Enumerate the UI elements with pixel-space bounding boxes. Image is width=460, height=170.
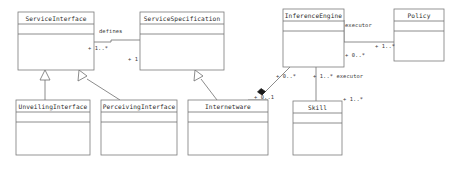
- generalization-unveilinginterface-serviceinterface: [40, 70, 50, 100]
- class-box-serviceinterface[interactable]: ServiceInterface: [18, 12, 94, 70]
- class-name-label: UnveilingInterface: [19, 103, 88, 111]
- class-name-label: Skill: [308, 104, 327, 111]
- association-line: [94, 40, 140, 42]
- class-box-internetware[interactable]: Internetware: [188, 100, 268, 155]
- edge-label-inferenceengine-bottom-multiplicity: + 0..*: [276, 73, 296, 79]
- generalization-arrowhead: [78, 70, 87, 81]
- class-box-skill[interactable]: Skill: [293, 101, 342, 155]
- edge-label-executor-bottom: + 1..* executor: [313, 73, 364, 79]
- edge-label-executor-top: executor: [345, 22, 372, 28]
- diagram-surface: ServiceInterface ServiceSpecification In…: [0, 0, 460, 170]
- class-name-label: ServiceInterface: [25, 15, 86, 22]
- edge-label-servicespecification-multiplicity: + 1: [128, 56, 138, 62]
- association-line: [262, 67, 290, 95]
- association-serviceinterface-servicespecification: [94, 40, 140, 42]
- generalization-perceivinginterface-serviceinterface: [78, 70, 120, 100]
- edge-label-skill-multiplicity: + 1..*: [343, 96, 363, 102]
- uml-class-diagram-canvas: ServiceInterface ServiceSpecification In…: [0, 0, 460, 170]
- class-box-unveilinginterface[interactable]: UnveilingInterface: [16, 100, 90, 155]
- generalization-arrowhead: [40, 70, 50, 80]
- class-name-label: Internetware: [205, 103, 251, 110]
- edge-label-defines: defines: [99, 28, 122, 34]
- class-name-label: PerceivingInterface: [103, 103, 176, 111]
- class-box-policy[interactable]: Policy: [394, 9, 444, 61]
- edge-label-policy-multiplicity: + 1..*: [375, 43, 395, 49]
- class-name-label: ServiceSpecification: [144, 15, 221, 23]
- edge-label-serviceinterface-multiplicity: + 1..*: [88, 45, 108, 51]
- class-name-label: Policy: [408, 12, 431, 20]
- generalization-line: [201, 79, 217, 100]
- class-box-perceivinginterface[interactable]: PerceivingInterface: [101, 100, 177, 155]
- generalization-line: [87, 79, 120, 100]
- edge-label-internetware-multiplicity: + 0..1: [254, 94, 274, 100]
- generalization-internetware-servicespecification: [194, 70, 217, 100]
- class-name-label: InferenceEngine: [285, 12, 343, 20]
- class-box-servicespecification[interactable]: ServiceSpecification: [140, 12, 224, 70]
- class-box-inferenceengine[interactable]: InferenceEngine: [283, 9, 344, 67]
- edge-label-inferenceengine-right-multiplicity: + 0..*: [345, 52, 365, 58]
